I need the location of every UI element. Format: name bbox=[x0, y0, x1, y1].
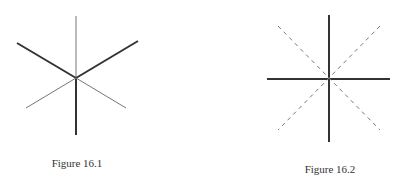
figure-16-2-drawing bbox=[267, 15, 390, 142]
lower-left-thin-line bbox=[26, 78, 76, 108]
diagram-canvas bbox=[0, 0, 410, 178]
figure-16-1-caption: Figure 16.1 bbox=[52, 158, 103, 169]
lower-right-thin-line bbox=[76, 78, 126, 108]
figure-16-2-caption: Figure 16.2 bbox=[305, 164, 356, 175]
upper-left-thick-line bbox=[17, 43, 76, 78]
upper-right-thick-line bbox=[76, 41, 138, 78]
figure-16-1-drawing bbox=[17, 16, 138, 135]
